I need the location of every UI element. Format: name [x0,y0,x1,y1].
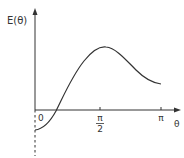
y-axis-label: E(θ) [7,15,27,26]
y-axis-arrow-icon [33,8,38,15]
tick-label-half-pi-num: π [97,113,103,123]
tick-label-pi: π [158,113,164,123]
chart: E(θ) θ 0 π 2 π [0,0,184,158]
x-axis-arrow-icon [174,108,181,113]
tick-label-zero: 0 [38,113,44,123]
x-axis-label: θ [174,119,180,129]
tick-label-half-pi-den: 2 [97,124,103,134]
